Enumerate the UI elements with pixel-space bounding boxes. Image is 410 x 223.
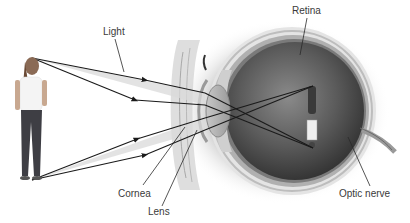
eyeball	[208, 27, 376, 195]
label-optic-nerve: Optic nerve	[339, 189, 390, 199]
light-leader	[115, 39, 124, 72]
label-lens: Lens	[148, 207, 170, 217]
label-light: Light	[103, 27, 125, 37]
label-cornea: Cornea	[118, 189, 151, 199]
woman-figure	[15, 57, 47, 180]
label-retina: Retina	[292, 6, 321, 16]
eye-diagram: Light Retina Cornea Lens Optic nerve	[0, 0, 410, 223]
